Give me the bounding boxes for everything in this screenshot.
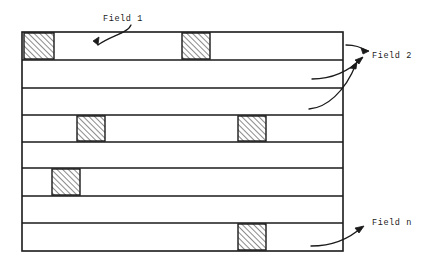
label-field-n: Field n [372,218,412,228]
hatched-field-block [238,116,266,141]
hatched-field-block [77,116,105,141]
field-layout-diagram: Field 1Field 2Field n [0,0,434,268]
label-field-2: Field 2 [372,51,412,61]
diagram-background [0,0,434,268]
hatched-field-block [238,224,266,250]
hatched-field-block [182,33,210,59]
record-row [52,169,80,195]
diagram-canvas: Field 1Field 2Field n [0,0,434,268]
record-row [238,224,266,250]
hatched-field-block [52,169,80,195]
hatched-field-block [24,33,54,59]
label-field-1: Field 1 [103,14,143,24]
